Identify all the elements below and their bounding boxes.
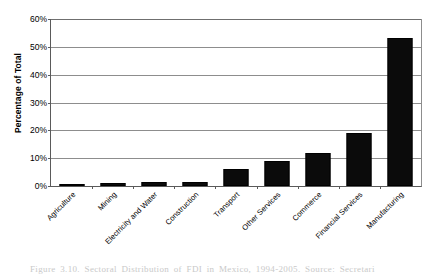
bar-slot [339, 19, 380, 186]
y-tick-label: 0% [35, 181, 47, 191]
y-tick-label: 10% [30, 153, 47, 163]
figure-caption-text: Figure 3.10. Sectoral Distribution of FD… [30, 264, 430, 274]
y-tick-label: 50% [30, 42, 47, 52]
bar-series [51, 19, 421, 186]
bar-manufacturing [388, 38, 413, 186]
x-axis-category-labels: AgricultureMiningElectricity and WaterCo… [50, 188, 420, 262]
plot-area: 0%10%20%30%40%50%60% [50, 19, 422, 187]
bar-agriculture [59, 184, 84, 187]
y-tick-label: 30% [30, 98, 47, 108]
bar-commerce [306, 153, 331, 186]
bar-chart-figure: Percentage of Total 0%10%20%30%40%50%60%… [0, 0, 436, 262]
y-tick-mark [48, 186, 51, 187]
bar-slot [215, 19, 256, 186]
bar-slot [298, 19, 339, 186]
bar-slot [257, 19, 298, 186]
y-tick-label: 40% [30, 70, 47, 80]
figure-caption: Figure 3.10. Sectoral Distribution of FD… [0, 264, 436, 279]
x-label-slot: Agriculture [50, 188, 91, 262]
bar-other-services [265, 161, 290, 186]
bar-construction [182, 182, 207, 186]
bar-transport [223, 169, 248, 186]
chart-screenshot: Percentage of Total 0%10%20%30%40%50%60%… [0, 0, 436, 279]
bar-slot [92, 19, 133, 186]
y-tick-label: 60% [30, 14, 47, 24]
bar-slot [51, 19, 92, 186]
x-axis-label-agriculture: Agriculture [44, 190, 76, 222]
y-tick-label: 20% [30, 125, 47, 135]
x-label-slot: Manufacturing [379, 188, 420, 262]
x-axis-label-transport: Transport [212, 190, 241, 219]
bar-slot [380, 19, 421, 186]
bar-electricity-and-water [141, 182, 166, 186]
bar-mining [100, 183, 125, 186]
bar-slot [133, 19, 174, 186]
x-axis-label-mining: Mining [96, 190, 118, 212]
y-axis-title: Percentage of Total [13, 38, 23, 148]
x-label-slot: Construction [173, 188, 214, 262]
bar-slot [174, 19, 215, 186]
x-label-slot: Other Services [256, 188, 297, 262]
bar-financial-services [347, 133, 372, 186]
